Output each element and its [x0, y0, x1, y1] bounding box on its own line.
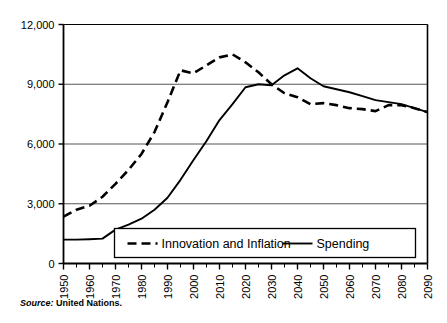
- x-axis-label-2060: 2060: [344, 275, 356, 299]
- x-axis-label-2020: 2020: [240, 275, 252, 299]
- x-axis-label-2000: 2000: [188, 275, 200, 299]
- source-note: Source: United Nations.: [20, 298, 122, 308]
- series-line-spending: [64, 68, 428, 239]
- x-axis-label-2050: 2050: [318, 275, 330, 299]
- y-axis-label-12000: 12,000: [21, 19, 55, 31]
- x-axis-label-1950: 1950: [58, 275, 70, 299]
- x-axis-label-2080: 2080: [396, 275, 408, 299]
- series-line-innovation-and-inflation: [64, 54, 428, 216]
- x-axis-label-2090: 2090: [422, 275, 434, 299]
- x-axis-label-1960: 1960: [84, 275, 96, 299]
- y-axis-label-0: 0: [48, 258, 54, 270]
- x-axis-label-1970: 1970: [110, 275, 122, 299]
- y-axis-label-3000: 3,000: [27, 198, 55, 210]
- x-axis-label-2070: 2070: [370, 275, 382, 299]
- source-label: Source:: [20, 298, 54, 308]
- x-axis-label-2040: 2040: [292, 275, 304, 299]
- legend-label-spending: Spending: [317, 237, 370, 251]
- legend-label-innovation-and-inflation: Innovation and Inflation: [162, 237, 291, 251]
- y-axis-label-6000: 6,000: [27, 138, 55, 150]
- y-axis-label-9000: 9,000: [27, 78, 55, 90]
- chart-figure: 03,0006,0009,00012,000195019601970198019…: [0, 0, 447, 323]
- source-text: United Nations.: [54, 298, 123, 308]
- x-axis-label-1990: 1990: [162, 275, 174, 299]
- line-chart: 03,0006,0009,00012,000195019601970198019…: [0, 0, 447, 323]
- x-axis-label-1980: 1980: [136, 275, 148, 299]
- x-axis-label-2010: 2010: [214, 275, 226, 299]
- x-axis-label-2030: 2030: [266, 275, 278, 299]
